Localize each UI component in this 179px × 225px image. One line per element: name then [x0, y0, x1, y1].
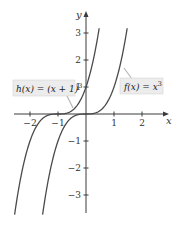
- svg-text:h(x) = (x + 1)3: h(x) = (x + 1)3: [16, 82, 82, 94]
- y-tick-label: −3: [68, 190, 82, 200]
- y-tick-label: −1: [68, 136, 81, 146]
- f-function-label: f(x) = x3: [120, 78, 163, 94]
- y-tick-label: 3: [75, 28, 81, 38]
- y-tick-label: 2: [75, 55, 81, 65]
- x-tick-label: 2: [139, 118, 145, 128]
- chart-canvas: −2−112 −3−2−1123 x y h(x) = (x + 1)3 f(x…: [0, 0, 179, 225]
- y-tick-label: −2: [68, 163, 81, 173]
- x-tick-label: −2: [23, 118, 36, 128]
- x-tick-label: −1: [51, 118, 64, 128]
- f-label-leader: [124, 68, 132, 79]
- h-function-label: h(x) = (x + 1)3: [13, 80, 82, 96]
- y-axis-label: y: [75, 9, 82, 20]
- h-label-exponent: 3: [78, 82, 82, 90]
- x-tick-label: 1: [111, 118, 117, 128]
- y-axis-arrow-icon: [84, 11, 89, 17]
- f-label-exponent: 3: [158, 80, 162, 88]
- h-label-leader: [67, 96, 73, 108]
- svg-text:f(x) = x3: f(x) = x3: [123, 80, 162, 92]
- f-label-text: f(x) = x: [123, 82, 158, 92]
- h-label-text: h(x) = (x + 1): [16, 84, 79, 94]
- x-axis-label: x: [166, 115, 172, 126]
